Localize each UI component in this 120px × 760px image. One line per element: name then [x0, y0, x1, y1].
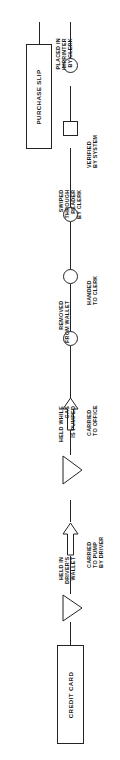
symbol-inspection-step-8 [63, 121, 78, 136]
symbol-transport-step-2 [62, 522, 79, 556]
symbol-operation-step-6 [63, 269, 78, 284]
symbol-delay-step-1 [62, 594, 83, 622]
flow-line-s9-s8 [70, 86, 71, 122]
symbol-delay-step-3 [62, 455, 83, 485]
step-label-4: CARRIED TO OFFICE [86, 405, 98, 436]
entity-credit-card: CREDIT CARD [57, 645, 84, 744]
step-label-9: PLACED IN IMPRINTER BY CLERK [55, 38, 73, 70]
step-label-1: HELD IN DRIVER'S WALLET [58, 557, 76, 584]
flow-line-bottom [70, 620, 71, 648]
flow-line-s6-s5 [70, 284, 71, 332]
flow-line-s5-s4 [70, 346, 71, 398]
entity-purchase-slip-stem [39, 22, 40, 44]
step-label-6: HANDED TO CLERK [86, 276, 98, 305]
step-label-7: SWIPED THROUGH READER BY CLERK [58, 190, 82, 219]
entity-purchase-slip: PURCHASE SLIP [26, 44, 52, 149]
flow-process-chart: PURCHASE SLIP PLACED IN IMPRINTER BY CLE… [0, 0, 120, 760]
step-label-8: VERIFIED BY SYSTEM [86, 135, 98, 168]
step-label-3: HELD WHILE GAS IS PUMPED [58, 406, 76, 442]
step-label-5: REMOVED FROM WALLET [58, 301, 70, 343]
entity-credit-card-label: CREDIT CARD [67, 671, 73, 717]
entity-purchase-slip-label: PURCHASE SLIP [36, 69, 42, 124]
step-label-2: CARRIED TO PUMP BY DRIVER [86, 536, 104, 568]
flow-line-s3-s2 [70, 500, 71, 522]
flow-line-s7-s6 [70, 222, 71, 270]
